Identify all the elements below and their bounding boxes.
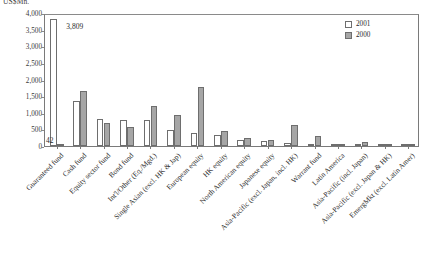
y-axis-tick-label: 1,500 <box>2 93 42 101</box>
x-axis-tick-mark <box>80 146 81 149</box>
x-axis-label-text: Asia-Pacific (excl. Japan, incl. HK) <box>219 151 300 232</box>
bar-2000 <box>57 144 64 146</box>
bar-2001 <box>308 144 315 146</box>
bar-2001 <box>50 19 57 146</box>
x-axis-label-text: North American equity <box>198 151 253 206</box>
bar-group <box>256 15 279 146</box>
bar-2001 <box>167 130 174 146</box>
bar-group <box>68 15 91 146</box>
x-axis-tick-mark <box>150 146 151 149</box>
legend-swatch-icon-2001 <box>345 21 352 28</box>
bar-group <box>162 15 185 146</box>
bar-group <box>45 15 68 146</box>
x-axis-label: European equity <box>165 151 206 192</box>
x-axis-label-text: Single Asian (excl. HK & Jap) <box>112 151 182 221</box>
x-axis-label-text: Asia-Pacific (excl. Japan & HK) <box>319 151 393 225</box>
bar-group <box>209 15 232 146</box>
bar-2001 <box>73 101 80 146</box>
x-axis-tick-mark <box>408 146 409 149</box>
bar-group <box>186 15 209 146</box>
x-axis-label: Single Asian (excl. HK & Jap) <box>112 151 182 221</box>
x-axis-label: Cash fund <box>61 151 89 179</box>
bar-2000 <box>174 115 181 146</box>
x-axis-label: Asia-Pacific (excl. Japan, incl. HK) <box>219 151 300 232</box>
x-axis-label: North American equity <box>198 151 253 206</box>
bar-2000 <box>244 138 251 146</box>
bar-2001 <box>120 120 127 146</box>
legend: 2001 2000 <box>345 19 370 41</box>
bar-2000 <box>151 106 158 146</box>
data-label-42: 42 <box>46 136 54 145</box>
x-axis-tick-mark <box>127 146 128 149</box>
legend-item-2000: 2000 <box>345 30 370 40</box>
legend-swatch-icon-2000 <box>345 32 352 39</box>
bar-2000 <box>338 144 345 146</box>
x-axis-tick-mark <box>361 146 362 149</box>
bar-2001 <box>237 140 244 146</box>
bar-2001 <box>214 135 221 146</box>
bar-group <box>92 15 115 146</box>
bar-2001 <box>261 141 268 146</box>
legend-item-2001: 2001 <box>345 19 370 29</box>
y-axis-tick-mark <box>41 147 44 148</box>
bar-2001 <box>378 144 385 146</box>
x-axis-tick-mark <box>315 146 316 149</box>
bar-2000 <box>104 123 111 146</box>
x-axis-label: Japanese equity <box>237 151 276 190</box>
x-axis-tick-mark <box>57 146 58 149</box>
x-axis-label-text: HK equity <box>201 151 229 179</box>
x-axis-label: Asia-Pacific (incl. Japan) <box>310 151 369 210</box>
y-axis-tick-label: 4,000 <box>2 10 42 18</box>
bar-2000 <box>221 131 228 146</box>
x-axis-label-text: Latin America <box>310 151 346 187</box>
x-axis-label-text: Warrant fund <box>289 151 323 185</box>
bar-2000 <box>408 144 415 146</box>
bar-2001 <box>97 119 104 146</box>
bar-2000 <box>385 144 392 146</box>
x-axis-tick-mark <box>385 146 386 149</box>
x-axis-label-text: Japanese equity <box>237 151 276 190</box>
x-axis-label-text: Cash fund <box>61 151 89 179</box>
y-axis-tick-label: 2,000 <box>2 77 42 85</box>
x-axis-label: Bond fund <box>107 151 136 180</box>
axis-unit-title: US$Mn. <box>3 0 29 6</box>
bar-group <box>233 15 256 146</box>
x-axis-label-text: Asia-Pacific (incl. Japan) <box>310 151 369 210</box>
bar-group <box>139 15 162 146</box>
x-axis-label: Int'l/Other (Eq./Mgd.) <box>106 151 158 203</box>
bar-group <box>303 15 326 146</box>
bar-group <box>279 15 302 146</box>
bar-2000 <box>362 142 369 146</box>
bar-2000 <box>291 125 298 146</box>
x-axis-label: Asia-Pacific (excl. Japan & HK) <box>319 151 393 225</box>
x-axis-label-text: Int'l/Other (Eq./Mgd.) <box>106 151 158 203</box>
x-axis-tick-mark <box>104 146 105 149</box>
x-axis-label: HK equity <box>201 151 229 179</box>
bar-2001 <box>401 144 408 146</box>
x-axis-tick-mark <box>244 146 245 149</box>
bar-group <box>115 15 138 146</box>
y-axis-tick-label: 3,000 <box>2 43 42 51</box>
x-axis-label: EmergMkt (excl. Latin Amer) <box>348 151 417 220</box>
y-axis-tick-label: 500 <box>2 126 42 134</box>
bar-2001 <box>191 133 198 146</box>
data-label-3809: 3,809 <box>66 22 83 31</box>
x-axis-label: Guaranteed fund <box>24 151 65 192</box>
bar-2000 <box>80 91 87 146</box>
bar-2001 <box>331 144 338 146</box>
bar-group <box>397 15 420 146</box>
y-axis-tick-label: 3,500 <box>2 27 42 35</box>
x-axis-tick-mark <box>174 146 175 149</box>
bar-2000 <box>315 136 322 146</box>
bar-2000 <box>198 87 205 146</box>
y-axis-tick-label: 0 <box>2 143 42 151</box>
x-axis-label: Latin America <box>310 151 346 187</box>
x-axis-label-text: EmergMkt (excl. Latin Amer) <box>348 151 417 220</box>
y-axis-tick-label: 2,500 <box>2 60 42 68</box>
x-axis-label-text: Bond fund <box>107 151 136 180</box>
bar-2000 <box>127 127 134 146</box>
x-axis-tick-mark <box>268 146 269 149</box>
x-axis-tick-mark <box>221 146 222 149</box>
x-axis-tick-mark <box>291 146 292 149</box>
bar-2001 <box>284 143 291 146</box>
